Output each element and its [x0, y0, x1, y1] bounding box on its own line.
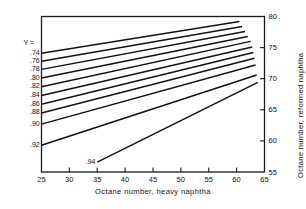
series-line [97, 82, 258, 162]
y-tick-label: 75 [269, 43, 285, 52]
series-line [42, 53, 254, 105]
x-tick-label: 60 [227, 175, 247, 184]
x-tick-label: 25 [32, 175, 52, 184]
chart-figure: 253035404550556065 556065707580 .74.76.7… [0, 0, 306, 209]
y-tick-label: 65 [269, 105, 285, 114]
series-label: .78 [24, 65, 40, 72]
series-label: .80 [24, 74, 40, 81]
y-tick-label: 60 [269, 136, 285, 145]
x-tick-label: 45 [143, 175, 163, 184]
x-tick-label: 35 [87, 175, 107, 184]
series-label: .84 [24, 91, 40, 98]
series-label: .76 [24, 57, 40, 64]
series-param-label: Y = [24, 39, 35, 46]
y-axis-ticks [260, 48, 265, 141]
x-tick-label: 55 [199, 175, 219, 184]
x-tick-label: 50 [171, 175, 191, 184]
x-axis-ticks [69, 168, 236, 173]
y-axis-title: Octane number, reformed naphtha [296, 53, 305, 178]
series-label: .94 [79, 158, 95, 165]
series-label: .74 [24, 49, 40, 56]
series-label: .88 [24, 108, 40, 115]
series-label: .90 [24, 120, 40, 127]
x-tick-label: 40 [115, 175, 135, 184]
series-lines-group [42, 21, 258, 162]
series-line [42, 65, 256, 124]
series-label: .86 [24, 100, 40, 107]
x-tick-label: 30 [59, 175, 79, 184]
y-tick-label: 70 [269, 74, 285, 83]
x-axis-title: Octane number, heavy naphtha [0, 187, 306, 196]
y-tick-label: 80 [269, 12, 285, 21]
series-label: .82 [24, 82, 40, 89]
y-tick-label: 55 [269, 168, 285, 177]
series-label: .92 [24, 141, 40, 148]
